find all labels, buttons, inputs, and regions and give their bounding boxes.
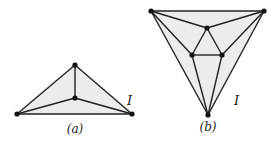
face-label-a: I — [126, 93, 133, 108]
caption-a: (a) — [67, 122, 84, 136]
figure-b: I (b) — [148, 8, 266, 134]
figure-a: I (a) — [14, 62, 134, 136]
caption-b: (b) — [199, 120, 216, 134]
planar-graphs-diagram: I (a) I (b) — [0, 0, 275, 144]
face-label-b: I — [233, 93, 240, 108]
